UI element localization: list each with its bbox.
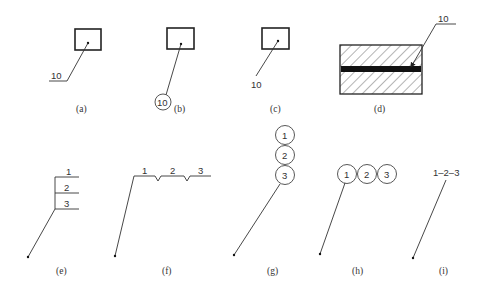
leader-dot — [27, 256, 29, 258]
leader-line — [28, 209, 55, 257]
panel-caption: (b) — [174, 104, 185, 115]
label-3: 3 — [198, 165, 203, 176]
panel-caption: (g) — [267, 266, 278, 277]
panel-caption: (i) — [439, 266, 448, 277]
part-box — [75, 29, 101, 50]
panel-c: 10 (c) — [251, 28, 289, 115]
panel-caption: (d) — [374, 104, 385, 115]
panel-i: 1–2–3 (i) — [412, 167, 460, 277]
leader-dot — [114, 255, 116, 257]
panel-caption: (h) — [352, 266, 363, 277]
label-1: 1 — [66, 166, 71, 177]
panel-caption: (a) — [76, 104, 87, 115]
panel-a: 10 (a) — [49, 29, 101, 115]
label-2: 2 — [364, 169, 369, 180]
diagram-canvas: 10 (a) 10 (b) 10 (c) 10 (d) 1 2 3 (e — [0, 0, 482, 294]
label-2: 2 — [282, 150, 287, 161]
label-1: 1 — [282, 130, 287, 141]
label-1: 1 — [344, 169, 349, 180]
reference-number: 10 — [157, 97, 168, 108]
leader-line — [413, 180, 446, 258]
leader-line — [320, 183, 345, 254]
leader-line — [166, 44, 181, 95]
panel-g: 1 2 3 (g) — [233, 126, 295, 278]
panel-caption: (c) — [270, 104, 281, 115]
reference-number: 10 — [251, 79, 262, 90]
label-1: 1 — [142, 165, 147, 176]
leader-dot — [233, 254, 235, 256]
panel-e: 1 2 3 (e) — [27, 166, 79, 277]
range-label: 1–2–3 — [433, 167, 459, 178]
leader-line — [234, 184, 280, 255]
panel-h: 1 2 3 (h) — [319, 165, 397, 278]
leader-dot — [412, 257, 414, 259]
label-3: 3 — [64, 198, 69, 209]
panel-f: 1 2 3 (f) — [114, 165, 211, 277]
reference-number: 10 — [438, 13, 449, 24]
label-2: 2 — [64, 182, 69, 193]
label-3: 3 — [384, 169, 389, 180]
black-layer — [341, 66, 421, 72]
panel-caption: (e) — [56, 266, 67, 277]
leader-dot — [319, 253, 321, 255]
panel-caption: (f) — [162, 266, 172, 277]
part-box — [262, 28, 289, 49]
label-2: 2 — [170, 165, 175, 176]
panel-d: 10 (d) — [340, 13, 456, 115]
panel-b: 10 (b) — [155, 28, 194, 115]
notched-leader — [115, 176, 211, 256]
reference-number: 10 — [51, 70, 62, 81]
label-3: 3 — [282, 170, 287, 181]
